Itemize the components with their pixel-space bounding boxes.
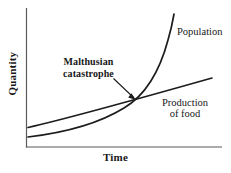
x-axis-label: Time bbox=[0, 152, 231, 163]
malthusian-catastrophe-chart: Population Productionof food Malthusianc… bbox=[0, 0, 231, 173]
annotation-malthusian-catastrophe: Malthusiancatastrophe bbox=[63, 56, 114, 80]
series-label-production-of-food: Productionof food bbox=[162, 98, 208, 119]
production-label-line-1: Production bbox=[162, 97, 208, 108]
production-label-line-2: of food bbox=[162, 109, 208, 120]
series-label-population: Population bbox=[177, 27, 223, 38]
y-axis-label: Quantity bbox=[7, 39, 18, 109]
catastrophe-label-line-1: Malthusian bbox=[64, 56, 114, 67]
catastrophe-label-line-2: catastrophe bbox=[63, 68, 114, 80]
